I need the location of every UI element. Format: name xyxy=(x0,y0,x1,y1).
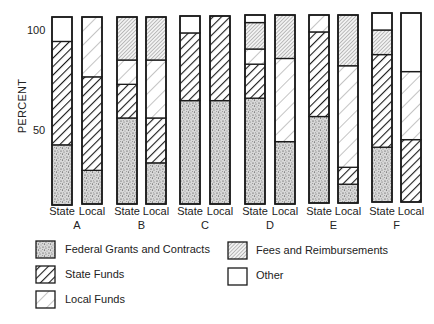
legend-label-state-funds: State Funds xyxy=(65,268,124,281)
y-tick-50: 50 xyxy=(33,124,45,136)
segment-stipple xyxy=(275,142,295,204)
legend-swatch-blank xyxy=(228,268,247,285)
x-tick-label: Local xyxy=(270,205,300,217)
segment-stipple xyxy=(117,118,137,204)
segment-stipple xyxy=(52,145,72,205)
bar-e-local xyxy=(338,15,358,203)
segment-light-diagonal xyxy=(82,17,102,77)
bar-a-state xyxy=(52,17,72,205)
group-label-c: C xyxy=(195,219,215,231)
segment-bold-diagonal xyxy=(372,55,392,148)
segment-bold-diagonal xyxy=(338,167,358,184)
segment-bold-diagonal xyxy=(210,16,230,101)
legend-swatch-light-diagonal xyxy=(36,291,55,308)
segment-light-diagonal xyxy=(146,60,166,118)
segment-bold-diagonal xyxy=(82,77,102,171)
segment-stipple xyxy=(372,147,392,202)
segment-stipple xyxy=(180,101,200,204)
segment-bold-diagonal xyxy=(146,118,166,163)
segment-light-diagonal xyxy=(275,58,295,141)
segment-bold-diagonal xyxy=(245,64,265,98)
segment-dense-diagonal xyxy=(245,23,265,49)
segment-stipple xyxy=(82,170,102,204)
segment-bold-diagonal xyxy=(117,84,137,118)
segment-dense-diagonal xyxy=(275,15,295,58)
x-tick-label: Local xyxy=(77,205,107,217)
group-label-f: F xyxy=(387,219,407,231)
x-tick-label: State xyxy=(47,205,77,217)
legend-swatch-stipple xyxy=(36,241,55,258)
segment-light-diagonal xyxy=(245,49,265,64)
bar-d-local xyxy=(275,15,295,204)
bar-a-local xyxy=(82,17,102,204)
bar-e-state xyxy=(309,15,329,203)
legend-label-other: Other xyxy=(256,269,284,282)
segment-light-diagonal xyxy=(338,66,358,168)
segment-stipple xyxy=(245,98,265,204)
segment-light-diagonal xyxy=(117,60,137,84)
legend-label-fees: Fees and Reimbursements xyxy=(256,244,388,257)
legend-swatch-dense-diagonal xyxy=(228,242,247,259)
segment-dense-diagonal xyxy=(372,30,392,55)
segment-light-diagonal xyxy=(401,72,421,140)
segment-dense-diagonal xyxy=(338,15,358,66)
segment-bold-diagonal xyxy=(180,33,200,101)
segment-stipple xyxy=(210,101,230,204)
group-label-d: D xyxy=(260,219,280,231)
segment-light-diagonal xyxy=(309,15,329,32)
bar-c-state xyxy=(180,16,200,204)
legend-label-local-funds: Local Funds xyxy=(65,293,125,306)
group-label-a: A xyxy=(67,219,87,231)
legend-swatch-bold-diagonal xyxy=(36,266,55,283)
segment-dense-diagonal xyxy=(117,17,137,60)
segment-bold-diagonal xyxy=(401,140,421,202)
bars xyxy=(52,13,421,205)
segment-bold-diagonal xyxy=(52,41,72,144)
segment-stipple xyxy=(146,163,166,204)
segment-stipple xyxy=(338,184,358,203)
bar-f-local xyxy=(401,13,421,202)
x-tick-label: State xyxy=(367,205,397,217)
x-tick-label: State xyxy=(240,205,270,217)
y-tick-100: 100 xyxy=(27,24,45,36)
segment-blank xyxy=(401,13,421,72)
bar-d-state xyxy=(245,15,265,204)
x-tick-label: State xyxy=(112,205,142,217)
segment-blank xyxy=(372,13,392,30)
bar-b-state xyxy=(117,17,137,204)
x-tick-label: Local xyxy=(333,205,363,217)
segment-blank xyxy=(180,16,200,33)
y-axis-label: PERCENT xyxy=(16,76,28,136)
segment-blank xyxy=(52,17,72,41)
group-label-b: B xyxy=(132,219,152,231)
bar-f-state xyxy=(372,13,392,202)
x-tick-label: State xyxy=(175,205,205,217)
x-tick-label: State xyxy=(304,205,334,217)
segment-stipple xyxy=(309,117,329,203)
group-label-e: E xyxy=(324,219,344,231)
bar-c-local xyxy=(210,16,230,204)
bar-b-local xyxy=(146,17,166,204)
segment-bold-diagonal xyxy=(309,32,329,117)
x-tick-label: Local xyxy=(205,205,235,217)
segment-blank xyxy=(245,15,265,23)
x-tick-label: Local xyxy=(396,205,426,217)
legend-label-federal: Federal Grants and Contracts xyxy=(65,243,210,256)
segment-dense-diagonal xyxy=(146,17,166,60)
x-tick-label: Local xyxy=(141,205,171,217)
